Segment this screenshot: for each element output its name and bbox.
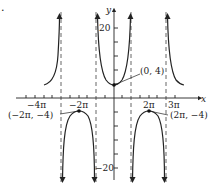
x-tick-3pi: 3π — [168, 101, 180, 110]
x-tick-neg2pi: −2π — [69, 101, 88, 110]
point-label-neg2pi: (−2π, −4) — [8, 111, 53, 120]
x-tick-2pi: 2π — [143, 101, 155, 110]
branch-right-down — [133, 111, 165, 180]
asymptotes — [61, 12, 166, 182]
point-origin — [112, 83, 116, 87]
leader-right — [149, 111, 168, 115]
y-axis — [114, 10, 118, 180]
panel-marker: . — [1, 2, 5, 13]
y-axis-label: y — [106, 6, 111, 15]
y-tick-20: 20 — [99, 24, 110, 33]
point-label-2pi: (2π, −4) — [170, 111, 208, 120]
branch-far-left — [44, 16, 60, 85]
branch-left-down — [63, 111, 95, 180]
point-label-origin: (0, 4) — [140, 67, 164, 76]
leader-left — [60, 111, 79, 114]
branch-far-right — [168, 16, 185, 85]
leader-origin — [114, 74, 140, 85]
x-axis — [16, 95, 200, 98]
x-tick-neg4pi: −4π — [27, 101, 46, 110]
y-tick-neg20: −20 — [95, 164, 114, 173]
secant-graph: . y x 20 −20 −4π −2π 2π 3π (0, 4) (−2π, … — [0, 0, 213, 185]
x-axis-label: x — [201, 95, 206, 104]
